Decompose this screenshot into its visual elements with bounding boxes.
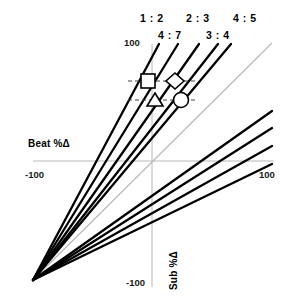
ratio-label-2-3: 2 : 3 <box>186 12 210 24</box>
ratio-label-3-4: 3 : 4 <box>206 29 230 41</box>
y-axis-tick-top: 100 <box>124 37 140 48</box>
x-axis-tick-left: -100 <box>25 169 44 180</box>
ratio-label-4-5: 4 : 5 <box>233 12 257 24</box>
y-axis-title: Beat %Δ <box>28 138 70 149</box>
ratio-line-3-4 <box>33 44 218 280</box>
chart-plot-area <box>0 0 297 302</box>
ratio-label-1-2: 1 : 2 <box>140 12 164 24</box>
ratio-label-4-7: 4 : 7 <box>158 29 182 41</box>
x-axis-title: Sub %Δ <box>168 251 179 290</box>
x-axis-tick-right: 100 <box>259 169 275 180</box>
marker-square <box>141 74 155 88</box>
y-axis-tick-bottom: -100 <box>126 277 145 288</box>
chart-container: 1 : 2 2 : 3 4 : 5 4 : 7 3 : 4 100 -100 1… <box>0 0 297 302</box>
marker-circle <box>174 93 189 108</box>
